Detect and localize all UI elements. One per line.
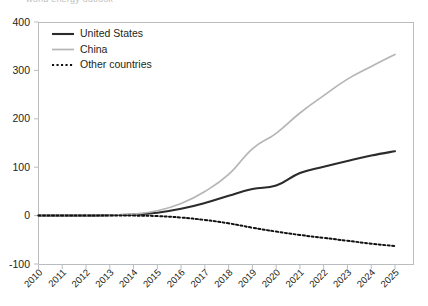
y-tick-label: 200 — [12, 112, 30, 124]
y-tick-label: 0 — [24, 209, 30, 221]
y-tick-label: 100 — [12, 161, 30, 173]
line-chart: world energy outlook -1000100200300400 2… — [0, 0, 428, 306]
x-tick-label: 2012 — [69, 267, 92, 290]
y-tick-group: -1000100200300400 — [9, 16, 39, 270]
x-tick-label: 2017 — [188, 267, 211, 290]
legend-label: Other countries — [80, 58, 152, 70]
legend-label: China — [80, 43, 108, 55]
x-tick-label: 2014 — [117, 267, 140, 290]
y-tick-label: 400 — [12, 16, 30, 28]
x-tick-label: 2024 — [354, 267, 377, 290]
x-tick-label: 2013 — [93, 267, 116, 290]
x-tick-label: 2025 — [378, 267, 401, 290]
x-tick-label: 2019 — [236, 267, 259, 290]
y-tick-label: 300 — [12, 64, 30, 76]
x-axis: 2010201120122013201420152016201720182019… — [22, 265, 414, 290]
x-tick-label: 2011 — [46, 267, 68, 289]
x-tick-label: 2015 — [141, 267, 164, 290]
series-line-other-countries — [39, 216, 396, 247]
chart-svg: -1000100200300400 2010201120122013201420… — [0, 0, 428, 306]
x-tick-label: 2020 — [259, 267, 282, 290]
chart-legend: United StatesChinaOther countries — [52, 27, 152, 70]
x-tick-label: 2016 — [164, 267, 187, 290]
y-tick-label: -100 — [9, 258, 30, 270]
y-axis: -1000100200300400 — [9, 16, 39, 270]
legend-label: United States — [80, 27, 143, 39]
x-tick-label: 2018 — [212, 267, 235, 290]
x-tick-label: 2021 — [283, 267, 306, 290]
x-tick-group: 2010201120122013201420152016201720182019… — [22, 265, 401, 290]
series-line-china — [39, 54, 396, 215]
x-tick-label: 2023 — [331, 267, 354, 290]
series-group — [39, 54, 396, 246]
x-tick-label: 2010 — [22, 267, 45, 290]
x-tick-label: 2022 — [307, 267, 330, 290]
